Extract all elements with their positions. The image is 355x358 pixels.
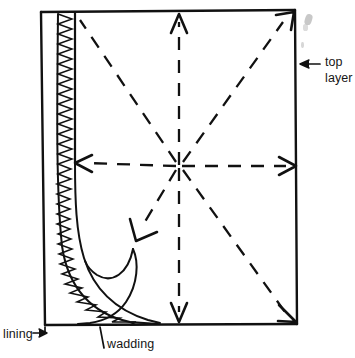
lining-leader <box>33 327 47 337</box>
scan-smudge-3 <box>301 42 304 48</box>
label-lining: lining <box>3 327 33 343</box>
top-layer-leader <box>300 60 320 68</box>
label-top-layer: toplayer <box>325 55 353 86</box>
dashed-construction-lines <box>80 20 286 312</box>
arrowhead-left <box>75 155 92 172</box>
label-top-layer-line1: top <box>325 55 343 69</box>
panel-outline <box>41 10 297 325</box>
arrowhead-down <box>171 303 187 322</box>
wadding-leader <box>100 327 104 348</box>
wadding-band-inner-edge <box>75 162 160 323</box>
diagram-canvas <box>0 0 355 358</box>
arrowhead-down-left <box>130 219 157 241</box>
label-top-layer-line2: layer <box>325 71 353 85</box>
arrowhead-down-right <box>278 305 296 322</box>
figure-root: toplayer lining wadding <box>0 0 355 358</box>
label-wadding: wadding <box>107 337 154 353</box>
scan-smudge-2 <box>303 24 308 31</box>
